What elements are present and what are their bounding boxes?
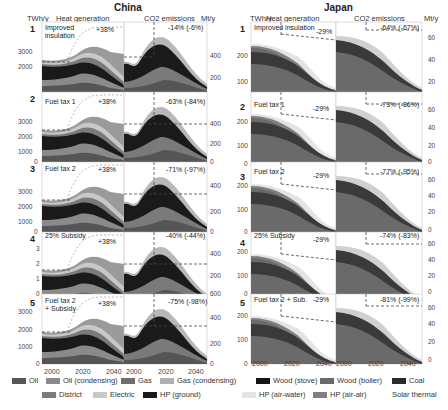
- china-co2-xtick: 2020: [158, 368, 174, 375]
- china-ytick: 2000: [18, 203, 32, 210]
- china-panel-1-label-1: Improved: [45, 24, 74, 32]
- japan-panel-4-label: 25% Subsidy: [254, 232, 295, 240]
- japan-co2-ytick: 20: [428, 208, 435, 215]
- japan-ytick: 0: [244, 290, 248, 297]
- japan-co2-ytick: 0: [428, 356, 432, 363]
- japan-co2-ytick: 40: [428, 56, 435, 63]
- japan-co2-ytick: 0: [428, 288, 432, 295]
- legend-item-oil-condensing: Oil (condensing): [46, 376, 118, 385]
- japan-panel-2-co2-change: -73% (-86%): [380, 101, 419, 108]
- japan-ytick: 0: [244, 228, 248, 235]
- china-panel-2-num: 2: [30, 94, 35, 104]
- china-panel-1-co2-change: -14% (-6%): [168, 24, 203, 31]
- japan-co2-ytick: 60: [428, 176, 435, 183]
- japan-co2-ytick: 20: [428, 338, 435, 345]
- legend-item-coal: Coal: [392, 376, 424, 385]
- legend-item-wood-stove: Wood (stove): [256, 376, 317, 385]
- legend-swatch: [143, 392, 157, 398]
- japan-ytick: 100: [237, 336, 248, 343]
- china-ytick: 3000: [18, 118, 32, 125]
- japan-ytick: 200: [237, 52, 248, 59]
- japan-panel-1-num: 1: [240, 24, 245, 34]
- legend-label: Solar thermal: [392, 390, 437, 399]
- china-panel-5-label-2: + Subsidy: [45, 305, 76, 313]
- legend-swatch: [12, 378, 26, 384]
- legend-label: HP (ground): [160, 390, 201, 399]
- china-ytick: 3000: [18, 188, 32, 195]
- china-panel-2-co2-change: -63% (-84%): [166, 98, 205, 105]
- japan-ytick: 0: [244, 360, 248, 367]
- japan-panel-5-num: 5: [240, 298, 245, 308]
- japan-panel-2-label: Fuel tax 1: [254, 101, 285, 109]
- japan-panel-4-heat-change: -29%: [313, 236, 329, 243]
- china-co2-xtick: 2040: [188, 368, 204, 375]
- legend-label: District: [59, 390, 82, 399]
- china-panel-5-heat-change: +38%: [98, 300, 116, 307]
- japan-ytick: 0: [244, 160, 248, 167]
- japan-co2-ytick: 40: [428, 192, 435, 199]
- legend-label: Wood (boiler): [337, 376, 382, 385]
- legend-item-gas-condensing: Gas (condensing): [160, 376, 236, 385]
- china-ytick: 0: [34, 228, 38, 235]
- china-co2-ytick: 200: [210, 340, 221, 347]
- legend-swatch: [121, 378, 135, 384]
- japan-heat-xtick: 2000: [252, 360, 268, 367]
- japan-heat-xtick: 2040: [316, 360, 332, 367]
- china-panel-1-num: 1: [30, 24, 35, 34]
- china-panel-4-co2-change: -40% (-44%): [166, 232, 205, 239]
- china-co2-xtick: 2000: [126, 368, 142, 375]
- china-co2-ytick: 200: [210, 272, 221, 279]
- china-ytick: 1000: [18, 218, 32, 225]
- china-ytick: 0: [36, 360, 40, 367]
- china-co2-ytick: 400: [210, 182, 221, 189]
- japan-ytick: 200: [237, 182, 248, 189]
- china-co2-ytick: 200: [210, 74, 221, 81]
- legend-swatch: [320, 378, 334, 384]
- legend-label: Gas (condensing): [177, 376, 236, 385]
- china-co2-ytick: 0: [210, 228, 214, 235]
- japan-co2-ytick: 60: [428, 240, 435, 247]
- legend-swatch: [46, 378, 60, 384]
- china-panel-4-num: 4: [30, 234, 35, 244]
- japan-co2-ytick: 60: [428, 34, 435, 41]
- legend-swatch: [256, 378, 270, 384]
- japan-co2-ytick: 20: [428, 142, 435, 149]
- legend-item-wood-boiler: Wood (boiler): [320, 376, 382, 385]
- china-co2-ytick: 200: [210, 208, 221, 215]
- china-panel-5-co2-change: -75% (-98%): [168, 298, 207, 305]
- legend-item-gas: Gas: [121, 376, 152, 385]
- china-panel-3-co2-change: -71% (-97%): [166, 166, 205, 173]
- legend-item-solar-thermal: Solar thermal: [392, 390, 437, 399]
- japan-panel-3-co2-change: -77% (-95%): [380, 168, 419, 175]
- japan-co2-ytick: 0: [428, 158, 432, 165]
- china-co2-ytick: 600: [210, 290, 221, 297]
- china-co2-ytick: 400: [210, 314, 221, 321]
- japan-co2-ytick: 20: [428, 78, 435, 85]
- china-panel-3-label: Fuel tax 2: [45, 165, 76, 173]
- japan-ytick: 100: [237, 142, 248, 149]
- legend-label: Coal: [409, 376, 424, 385]
- china-panel-1-label-2: insulation: [45, 32, 75, 40]
- china-panel-3-num: 3: [30, 164, 35, 174]
- china-heat-xtick: 2000: [44, 368, 60, 375]
- japan-ytick: 100: [237, 272, 248, 279]
- japan-co2-xtick: 2000: [336, 360, 352, 367]
- china-ytick: 3: [36, 245, 40, 252]
- japan-co2-ytick: 0: [428, 226, 432, 233]
- china-panel-5-num: 5: [30, 298, 35, 308]
- legend-swatch: [93, 392, 107, 398]
- japan-panel-5-heat-change: -29%: [313, 296, 329, 303]
- legend-label: Wood (stove): [273, 376, 317, 385]
- china-panel-4-heat-change: +38%: [98, 238, 116, 245]
- china-ytick: 2000: [18, 326, 32, 333]
- japan-panel-3-label: Fuel tax 2: [254, 168, 285, 176]
- china-co2-ytick: 400: [210, 52, 221, 59]
- legend-label: Gas: [138, 376, 152, 385]
- china-co2-ytick: 400: [210, 120, 221, 127]
- japan-co2-ytick: 60: [428, 106, 435, 113]
- legend-swatch: [392, 378, 406, 384]
- japan-co2-ytick: 40: [428, 256, 435, 263]
- legend-label: Oil: [29, 376, 38, 385]
- legend-swatch: [160, 378, 174, 384]
- japan-panel-4-co2-change: -74% (-83%): [380, 232, 419, 239]
